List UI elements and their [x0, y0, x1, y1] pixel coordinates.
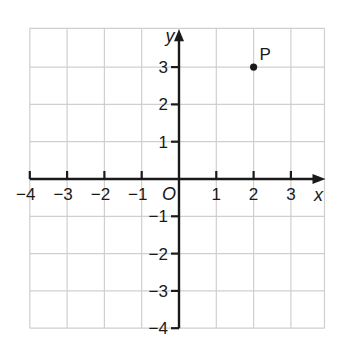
coordinate-plane: −4−3−2−1123321−1−2−3−4Oxy P	[0, 0, 343, 356]
x-axis-label: x	[313, 185, 324, 205]
y-tick-label: −3	[149, 282, 168, 301]
y-axis-label: y	[164, 26, 176, 46]
y-tick-label: −4	[149, 319, 168, 338]
y-tick-label: −1	[149, 207, 168, 226]
point-marker	[250, 64, 257, 71]
x-tick-label: −3	[53, 185, 72, 204]
x-tick-label: −2	[91, 185, 110, 204]
y-tick-label: 3	[159, 58, 168, 77]
x-tick-label: 2	[249, 185, 258, 204]
x-tick-label: −4	[16, 185, 35, 204]
y-tick-label: 2	[159, 95, 168, 114]
axes	[30, 29, 326, 328]
y-tick-label: −2	[149, 245, 168, 264]
y-tick-label: 1	[159, 133, 168, 152]
x-tick-label: 3	[286, 185, 295, 204]
x-axis-arrow-icon	[312, 174, 325, 184]
y-axis-arrow-icon	[174, 29, 184, 41]
x-tick-label: −1	[128, 185, 147, 204]
origin-label: O	[162, 184, 176, 204]
x-tick-label: 1	[212, 185, 221, 204]
point-label: P	[260, 45, 271, 64]
